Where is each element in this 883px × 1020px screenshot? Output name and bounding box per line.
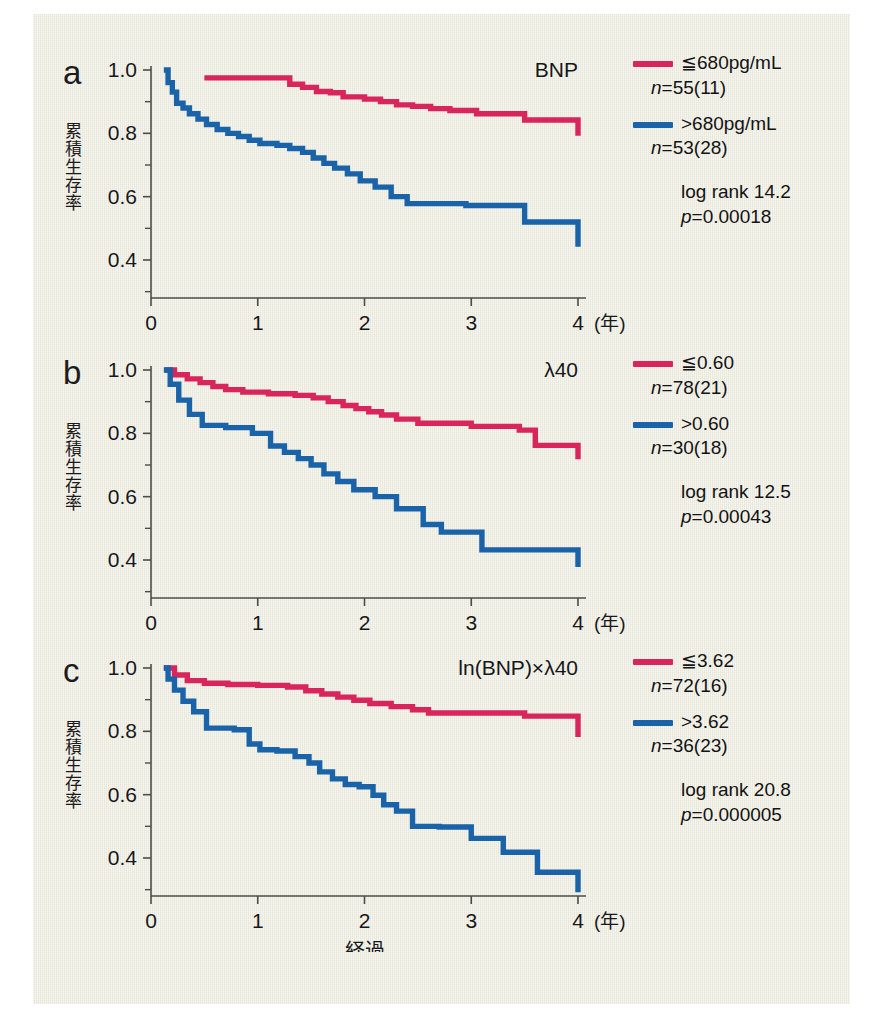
pvalue-b: p=0.00043 [681,505,848,529]
legend-swatch-low-c [633,659,673,665]
legend-n-high-a: n=53(28) [633,137,848,160]
svg-text:0.8: 0.8 [108,421,137,444]
legend-label-low-a: ≦680pg/mL [681,52,782,73]
legend-a: ≦680pg/mL n=55(11) >680pg/mL n=53(28) [633,52,848,229]
logrank-c: log rank 20.8 [681,778,848,802]
svg-text:(年): (年) [594,911,626,932]
svg-text:4: 4 [572,311,584,334]
legend-entry-low-b: ≦0.60 [633,352,848,375]
svg-text:0.8: 0.8 [108,719,137,742]
legend-swatch-high-a [633,122,673,128]
svg-text:1.0: 1.0 [108,58,137,81]
svg-text:3: 3 [465,311,477,334]
legend-n-low-c: n=72(16) [633,675,848,698]
svg-text:4: 4 [572,909,584,932]
legend-entry-low-c: ≦3.62 [633,650,848,673]
svg-text:1: 1 [252,611,264,634]
legend-n-high-b: n=30(18) [633,437,848,460]
legend-n-high-c: n=36(23) [633,735,848,758]
legend-n-low-b: n=78(21) [633,377,848,400]
svg-text:1.0: 1.0 [108,358,137,381]
stats-c: log rank 20.8 p=0.000005 [633,778,848,827]
logrank-a: log rank 14.2 [681,180,848,204]
svg-text:3: 3 [465,909,477,932]
survival-plot-c: 1.00.80.60.401234(年)経過 [33,634,633,952]
stats-a: log rank 14.2 p=0.00018 [633,180,848,229]
legend-n-low-a: n=55(11) [633,77,848,100]
legend-label-high-c: >3.62 [681,711,729,732]
legend-swatch-high-b [633,422,673,428]
legend-swatch-low-a [633,61,673,67]
pvalue-a: p=0.00018 [681,205,848,229]
legend-entry-high-c: >3.62 [633,711,848,734]
legend-b: ≦0.60 n=78(21) >0.60 n=30(18) log r [633,352,848,529]
legend-entry-high-a: >680pg/mL [633,113,848,136]
scanned-page: a 累積生存率 BNP 1.00.80.60.401234(年) ≦680pg/… [33,14,850,1004]
legend-c: ≦3.62 n=72(16) >3.62 n=36(23) log r [633,650,848,827]
figure-root: a 累積生存率 BNP 1.00.80.60.401234(年) ≦680pg/… [0,0,883,1020]
svg-text:2: 2 [359,311,371,334]
svg-text:0.8: 0.8 [108,121,137,144]
svg-text:0.6: 0.6 [108,485,137,508]
legend-swatch-low-b [633,361,673,367]
svg-text:1.0: 1.0 [108,656,137,679]
svg-text:3: 3 [465,611,477,634]
svg-text:0: 0 [145,611,157,634]
panel-c: c 累積生存率 ln(BNP)×λ40 1.00.80.60.401234(年)… [33,634,850,952]
legend-label-low-b: ≦0.60 [681,352,734,373]
survival-plot-a: 1.00.80.60.401234(年) [33,36,633,354]
svg-text:2: 2 [359,611,371,634]
survival-plot-b: 1.00.80.60.401234(年) [33,336,633,654]
svg-text:(年): (年) [594,313,626,334]
svg-text:1: 1 [252,909,264,932]
legend-label-low-c: ≦3.62 [681,650,734,671]
svg-text:0.6: 0.6 [108,783,137,806]
svg-text:0: 0 [145,909,157,932]
legend-swatch-high-c [633,720,673,726]
legend-entry-high-b: >0.60 [633,413,848,436]
pvalue-c: p=0.000005 [681,803,848,827]
svg-text:2: 2 [359,909,371,932]
stats-b: log rank 12.5 p=0.00043 [633,480,848,529]
svg-text:0.4: 0.4 [108,248,138,271]
svg-text:4: 4 [572,611,584,634]
logrank-b: log rank 12.5 [681,480,848,504]
panel-a: a 累積生存率 BNP 1.00.80.60.401234(年) ≦680pg/… [33,36,850,354]
svg-text:0.4: 0.4 [108,548,138,571]
svg-text:1: 1 [252,311,264,334]
svg-text:0: 0 [145,311,157,334]
panel-b: b 累積生存率 λ40 1.00.80.60.401234(年) ≦0.60 n… [33,336,850,654]
legend-label-high-b: >0.60 [681,413,729,434]
svg-text:経過: 経過 [345,940,385,952]
legend-entry-low-a: ≦680pg/mL [633,52,848,75]
legend-label-high-a: >680pg/mL [681,113,777,134]
svg-text:(年): (年) [594,613,626,634]
svg-text:0.6: 0.6 [108,185,137,208]
svg-text:0.4: 0.4 [108,846,138,869]
